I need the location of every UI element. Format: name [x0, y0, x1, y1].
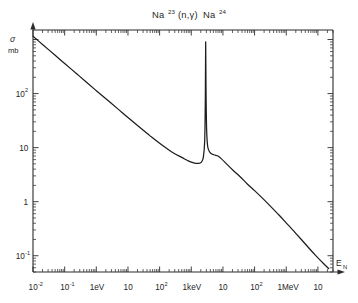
plot-frame: [30, 22, 345, 275]
cross-section-curve: [33, 36, 329, 268]
x-axis-energy-subscript: N: [343, 264, 347, 270]
x-tick-label-exponent: -2: [38, 281, 43, 287]
x-tick-label-exponent: 2: [260, 281, 263, 287]
y-axis-sigma-symbol: σ: [10, 34, 16, 44]
y-tick-label: 10: [19, 144, 29, 153]
x-tick-label-text: 10: [155, 283, 165, 292]
x-tick-label: 102: [250, 281, 263, 293]
axis-ticks: [33, 30, 333, 272]
y-tick-label-text: 1: [24, 198, 29, 207]
y-axis-tick-labels: 10210110-1: [16, 87, 30, 260]
x-axis-arrow: [338, 269, 346, 274]
x-tick-label: 1keV: [183, 283, 202, 292]
y-tick-label: 10-1: [16, 250, 30, 261]
y-axis-arrow: [30, 22, 35, 30]
x-tick-label: 10: [314, 283, 324, 292]
chart-title-na24: Na: [203, 9, 216, 20]
x-tick-label-text: 1eV: [90, 283, 105, 292]
x-tick-label: 10: [219, 283, 229, 292]
y-axis-unit-mb: mb: [8, 46, 19, 55]
chart-title-sup-24: 24: [219, 8, 226, 15]
x-axis-title: E N: [336, 258, 347, 270]
y-tick-label-exponent: 2: [25, 87, 28, 93]
x-axis-tick-labels: 10-210-11eV101021keV101021MeV10: [29, 281, 323, 293]
x-tick-label-text: 1keV: [183, 283, 202, 292]
chart-title-na23: Na: [152, 9, 165, 20]
x-tick-label-text: 10: [60, 283, 70, 292]
cross-section-plot: Na 23 (n,γ) Na 24 10-210-11eV101021keV10…: [0, 0, 358, 303]
x-tick-label: 10: [124, 283, 134, 292]
figure-canvas: Na 23 (n,γ) Na 24 10-210-11eV101021keV10…: [0, 0, 358, 303]
x-tick-label-exponent: -1: [70, 281, 75, 287]
x-tick-label-text: 10: [29, 283, 39, 292]
chart-title-sup-23: 23: [168, 8, 175, 15]
x-tick-label: 10-2: [29, 281, 43, 293]
x-tick-label-text: 10: [250, 283, 260, 292]
x-tick-label: 10-1: [60, 281, 74, 293]
x-tick-label: 102: [155, 281, 168, 293]
y-tick-label-exponent: -1: [25, 250, 30, 256]
x-tick-label: 1eV: [90, 283, 105, 292]
y-tick-label: 102: [16, 87, 28, 98]
y-axis-title: σ mb: [8, 34, 19, 55]
chart-title-reaction: (n,γ): [178, 9, 198, 20]
x-axis-energy-symbol: E: [336, 258, 342, 268]
y-tick-label-text: 10: [16, 252, 26, 261]
x-tick-label-text: 1MeV: [277, 283, 299, 292]
x-tick-label-exponent: 2: [165, 281, 168, 287]
y-tick-label-text: 10: [16, 90, 26, 99]
x-tick-label-text: 10: [219, 283, 229, 292]
y-tick-label-text: 10: [19, 144, 29, 153]
x-tick-label: 1MeV: [277, 283, 299, 292]
x-tick-label-text: 10: [124, 283, 134, 292]
chart-title: Na 23 (n,γ) Na 24: [152, 8, 226, 21]
x-tick-label-text: 10: [314, 283, 324, 292]
y-tick-label: 1: [24, 198, 29, 207]
